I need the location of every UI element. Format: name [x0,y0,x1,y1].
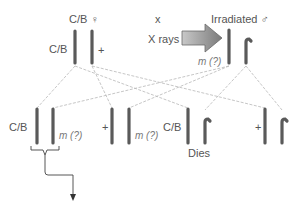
male-m-label: m (?) [198,56,221,68]
x-rays-label: X rays [148,33,179,45]
cross-diagram: C/B ♀ C/B + x Irradiated ♂ X rays m (?) … [0,0,304,211]
female-parent-label: C/B ♀ [69,13,99,25]
inheritance-lines [37,66,282,110]
offspring-3-left-label: C/B [163,121,181,133]
cross-symbol: x [155,13,161,25]
x-ray-arrow-icon [182,24,222,52]
female-chromosomes [75,31,92,63]
male-y-chromosome [246,39,251,63]
offspring-1-right-label: m (?) [59,130,82,142]
offspring-4-left-label: + [255,121,261,133]
offspring-2-left-label: + [102,121,108,133]
offspring-2-right-label: m (?) [135,130,158,142]
male-parent-label: Irradiated ♂ [211,13,269,25]
female-plus-label: + [98,44,104,56]
offspring-1-left-label: C/B [9,121,27,133]
male-chromosomes [229,30,251,63]
offspring-3-fate-label: Dies [188,147,210,159]
diagram-graphics [0,0,304,211]
bracket-arrow-icon [31,146,76,201]
female-clb-label: C/B [49,43,67,55]
